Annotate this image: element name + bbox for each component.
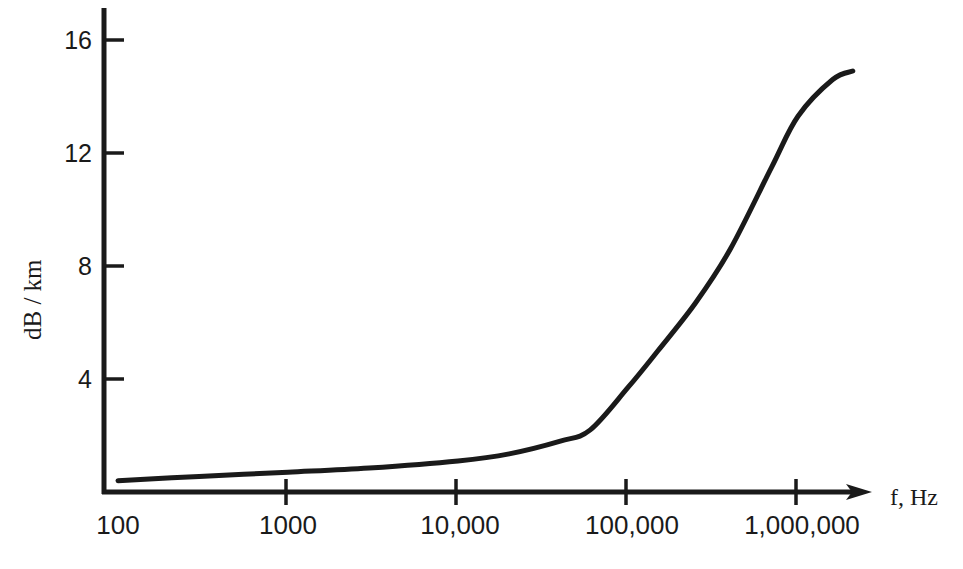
- attenuation-curve: [118, 71, 853, 481]
- x-tick-label-1000: 1000: [259, 512, 317, 538]
- y-axis-title: dB / km: [20, 259, 45, 340]
- x-tick-label-1000000: 1,000,000: [744, 512, 860, 538]
- chart-canvas: [0, 0, 963, 569]
- y-axis-ticks: [104, 40, 124, 379]
- x-tick-label-10000: 10,000: [420, 512, 500, 538]
- chart-figure: 16 12 8 4 100 1000 10,000 100,000 1,000,…: [0, 0, 963, 569]
- x-tick-label-100000: 100,000: [585, 512, 679, 538]
- x-tick-label-100: 100: [96, 512, 139, 538]
- y-tick-label-8: 8: [78, 254, 92, 279]
- y-tick-label-4: 4: [78, 367, 92, 392]
- x-axis-title: f, Hz: [890, 485, 938, 509]
- y-tick-label-12: 12: [64, 141, 92, 166]
- y-tick-label-16: 16: [64, 28, 92, 53]
